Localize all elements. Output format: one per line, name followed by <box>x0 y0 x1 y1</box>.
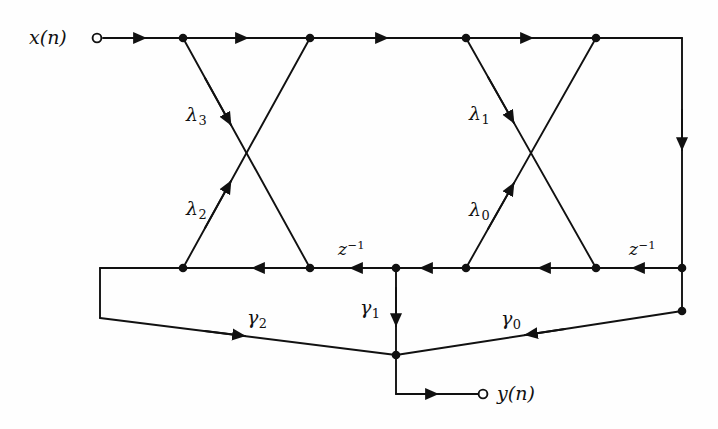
lambda-1-index: 1 <box>482 112 490 127</box>
gamma-1-label: γ1 <box>360 298 380 321</box>
delay-right-label: z−1 <box>629 240 656 258</box>
delay-right-base: z <box>629 239 638 259</box>
gamma-1-index: 1 <box>372 306 380 321</box>
gamma-2-base: γ <box>247 306 258 328</box>
lambda-3-arrow <box>205 78 231 125</box>
node-top-3 <box>462 34 471 43</box>
output-argument: (n) <box>508 382 535 404</box>
lambda-0-arrow <box>488 183 514 229</box>
delay-left-base: z <box>338 239 347 259</box>
gamma-0-base: γ <box>501 307 512 329</box>
lambda-1-base: λ <box>469 102 481 124</box>
lambda-1-label: λ1 <box>469 104 490 127</box>
output-terminal <box>479 390 488 399</box>
lambda-2-arrow <box>205 181 231 228</box>
node-summing-junction <box>392 351 401 360</box>
lambda-3-label: λ3 <box>186 105 207 128</box>
lambda-0-label: λ0 <box>469 200 490 223</box>
gamma-2-arrow <box>205 331 245 336</box>
gamma-0-arrow <box>525 329 565 335</box>
node-top-2 <box>306 34 315 43</box>
node-bottom-right <box>678 264 687 273</box>
node-bottom-4 <box>592 264 601 273</box>
flow-graph-canvas <box>0 0 718 429</box>
input-label: x(n) <box>29 28 67 47</box>
input-terminal <box>93 34 102 43</box>
signal-flow-diagram: x(n) y(n) λ3 λ2 λ1 λ0 γ2 γ1 γ0 z−1 z−1 <box>0 0 718 429</box>
gamma-0-label: γ0 <box>501 309 521 332</box>
node-bottom-1 <box>179 264 188 273</box>
node-bottom-3 <box>462 264 471 273</box>
input-argument: (n) <box>40 26 67 48</box>
lambda-0-base: λ <box>469 198 481 220</box>
node-gamma0-corner <box>678 307 687 316</box>
gamma-2-label: γ2 <box>247 308 267 331</box>
lambda-2-index: 2 <box>199 207 207 222</box>
lambda-3-base: λ <box>186 103 198 125</box>
lambda-2-base: λ <box>186 197 198 219</box>
terminal-group <box>93 34 488 399</box>
node-bottom-center <box>392 264 401 273</box>
input-variable: x <box>29 26 40 48</box>
lambda-1-arrow <box>488 77 514 123</box>
node-top-4 <box>592 34 601 43</box>
delay-right-exponent: −1 <box>638 238 655 252</box>
gamma-0-index: 0 <box>513 317 521 332</box>
output-label: y(n) <box>497 384 535 403</box>
lambda-3-index: 3 <box>199 113 207 128</box>
lambda-0-index: 0 <box>482 208 490 223</box>
node-top-1 <box>179 34 188 43</box>
lambda-2-label: λ2 <box>186 199 207 222</box>
node-bottom-2 <box>306 264 315 273</box>
gamma-1-base: γ <box>360 296 371 318</box>
gamma-2-index: 2 <box>259 316 267 331</box>
delay-left-label: z−1 <box>338 240 365 258</box>
output-variable: y <box>497 382 508 404</box>
delay-left-exponent: −1 <box>347 238 364 252</box>
